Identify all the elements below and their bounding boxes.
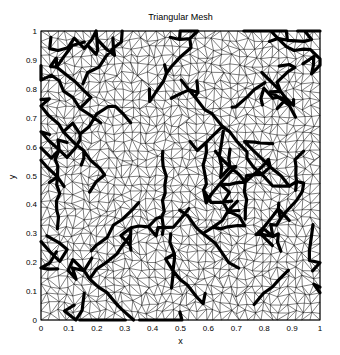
x-axis-ticks: 00.10.20.30.40.50.60.70.80.91 (39, 324, 323, 333)
x-tick-label: 0.8 (259, 324, 271, 333)
y-tick-label: 1 (33, 27, 38, 36)
y-tick-label: 0.3 (26, 229, 38, 238)
y-axis-ticks: 00.10.20.30.40.50.60.70.80.91 (26, 27, 38, 325)
mesh-plot: 00.10.20.30.40.50.60.70.80.91 00.10.20.3… (0, 0, 340, 355)
y-tick-label: 0.5 (26, 172, 38, 181)
x-tick-label: 1 (318, 324, 323, 333)
x-tick-label: 0.6 (203, 324, 215, 333)
x-tick-label: 0 (39, 324, 44, 333)
y-tick-label: 0.8 (26, 85, 38, 94)
y-tick-label: 0.6 (26, 143, 38, 152)
mesh-thin-edges (41, 31, 320, 320)
x-tick-label: 0.1 (63, 324, 75, 333)
x-tick-label: 0.2 (91, 324, 103, 333)
y-tick-label: 0.1 (26, 287, 38, 296)
x-tick-label: 0.9 (287, 324, 299, 333)
y-tick-label: 0.7 (26, 114, 38, 123)
x-tick-label: 0.4 (147, 324, 159, 333)
x-tick-label: 0.7 (231, 324, 243, 333)
figure: Triangular Mesh x y 00.10.20.30.40.50.60… (0, 0, 340, 355)
y-tick-label: 0.2 (26, 258, 38, 267)
y-tick-label: 0 (33, 316, 38, 325)
x-tick-label: 0.5 (175, 324, 187, 333)
y-tick-label: 0.4 (26, 200, 38, 209)
y-tick-label: 0.9 (26, 56, 38, 65)
x-tick-label: 0.3 (119, 324, 131, 333)
